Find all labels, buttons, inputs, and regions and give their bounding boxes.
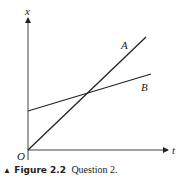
- y-axis-label: x: [24, 5, 30, 17]
- caption-text: Question 2.: [71, 164, 117, 175]
- triangle-icon: ▲: [3, 166, 11, 175]
- figure-number: Figure 2.2: [14, 165, 66, 175]
- figure-caption: ▲ Figure 2.2 Question 2.: [3, 164, 117, 175]
- x-axis-label: t: [172, 144, 176, 156]
- origin-label: O: [17, 150, 25, 160]
- line-a-label: A: [120, 39, 128, 51]
- line-b: [28, 74, 151, 111]
- line-b-label: B: [141, 81, 148, 93]
- position-time-graph: x t O A B: [0, 0, 186, 160]
